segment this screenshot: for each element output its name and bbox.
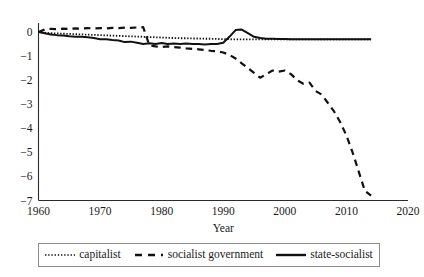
chart-figure: 0−1−2−3−4−5−6−7 196019701980199020002010… xyxy=(0,0,424,277)
y-axis-tick-labels: 0−1−2−3−4−5−6−7 xyxy=(20,26,33,207)
x-axis-tick-labels: 1960197019801990200020102020 xyxy=(27,205,420,217)
y-tick-label: −3 xyxy=(20,98,32,110)
line-chart-canvas: 0−1−2−3−4−5−6−7 196019701980199020002010… xyxy=(0,0,424,277)
y-tick-label: −5 xyxy=(20,146,32,158)
legend-swatch-dashed xyxy=(134,250,164,260)
legend-item-capitalist[interactable]: capitalist xyxy=(45,249,121,261)
x-tick-label: 1970 xyxy=(89,205,112,217)
y-tick-label: 0 xyxy=(27,26,33,38)
x-tick-label: 2010 xyxy=(335,205,358,217)
legend-label-capitalist: capitalist xyxy=(79,249,121,261)
x-axis-title: Year xyxy=(213,222,234,234)
legend-swatch-dotted xyxy=(45,250,75,260)
x-tick-label: 2000 xyxy=(273,205,296,217)
x-tick-label: 1990 xyxy=(212,205,235,217)
legend-label-socialist-government: socialist government xyxy=(168,249,264,261)
x-tick-label: 2020 xyxy=(397,205,420,217)
x-tick-label: 1980 xyxy=(150,205,173,217)
legend-item-socialist-government[interactable]: socialist government xyxy=(134,249,264,261)
chart-legend: capitalist socialist government state-so… xyxy=(38,243,380,267)
y-tick-label: −4 xyxy=(20,122,32,134)
y-tick-label: −1 xyxy=(20,50,32,62)
series-line-state-socialist xyxy=(39,30,372,45)
x-tick-label: 1960 xyxy=(27,205,50,217)
series-line-socialist-government xyxy=(39,27,372,196)
y-tick-label: −2 xyxy=(20,74,32,86)
legend-label-state-socialist: state-socialist xyxy=(310,249,373,261)
y-tick-label: −6 xyxy=(20,170,32,182)
legend-item-state-socialist[interactable]: state-socialist xyxy=(276,249,373,261)
data-series-group xyxy=(39,27,372,196)
legend-swatch-solid xyxy=(276,250,306,260)
